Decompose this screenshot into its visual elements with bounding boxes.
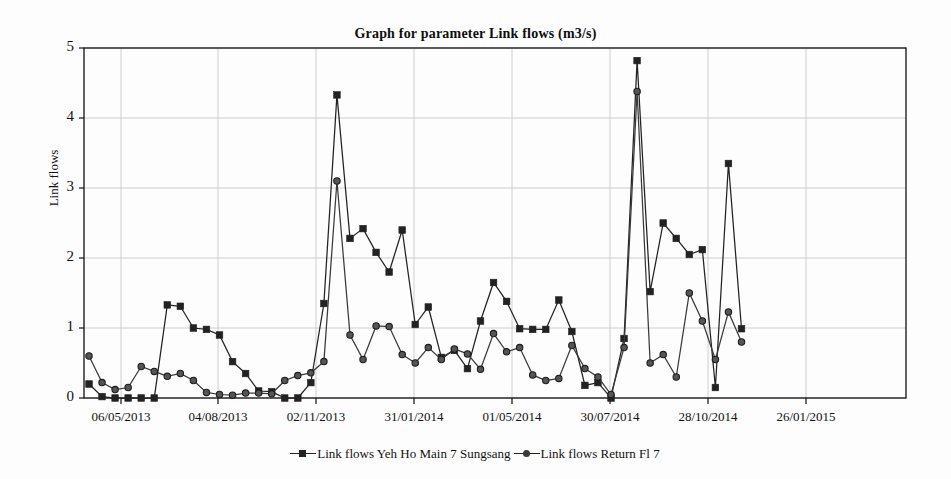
- square-marker-icon: [290, 449, 316, 459]
- y-tick-label: 3: [48, 178, 74, 195]
- legend-entry-series2[interactable]: Link flows Return Fl 7: [514, 445, 661, 462]
- chart-legend: Link flows Yeh Ho Main 7 Sungsang Link f…: [0, 444, 951, 462]
- plot-area: [0, 0, 951, 479]
- gridlines: [84, 48, 906, 398]
- x-tick-label: 30/07/2014: [555, 409, 665, 425]
- y-tick-label: 5: [48, 38, 74, 55]
- axis-ticks: [79, 48, 806, 404]
- y-tick-label: 0: [48, 388, 74, 405]
- x-tick-label: 31/01/2014: [359, 409, 469, 425]
- x-tick-label: 28/10/2014: [653, 409, 763, 425]
- y-tick-label: 2: [48, 248, 74, 265]
- x-tick-label: 26/01/2015: [751, 409, 861, 425]
- circle-marker-icon: [514, 449, 540, 459]
- data-series-layer: [86, 57, 745, 401]
- x-tick-label: 06/05/2013: [66, 409, 176, 425]
- chart-canvas: [0, 0, 951, 479]
- y-tick-label: 1: [48, 318, 74, 335]
- legend-entry-series1[interactable]: Link flows Yeh Ho Main 7 Sungsang: [290, 445, 511, 462]
- legend-label-series2: Link flows Return Fl 7: [540, 446, 661, 462]
- legend-label-series1: Link flows Yeh Ho Main 7 Sungsang: [316, 446, 511, 462]
- axes-frame: [84, 48, 906, 398]
- y-tick-label: 4: [48, 108, 74, 125]
- x-tick-label: 02/11/2013: [261, 409, 371, 425]
- chart-page: Graph for parameter Link flows (m3/s) Li…: [0, 0, 951, 479]
- x-tick-label: 01/05/2014: [457, 409, 567, 425]
- x-tick-label: 04/08/2013: [163, 409, 273, 425]
